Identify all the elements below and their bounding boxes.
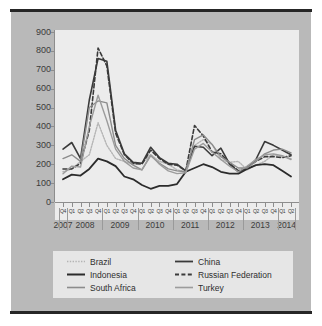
x-axis-tick-mark [107, 202, 108, 207]
legend-item-brazil[interactable]: Brazil [67, 255, 175, 268]
y-axis-tick-mark [51, 70, 54, 71]
year-separator [208, 208, 209, 230]
line-chart-svg [55, 30, 299, 220]
x-axis-tick-mark [256, 202, 257, 207]
quarter-label: Q2 [183, 208, 189, 215]
y-axis-tick-label: 800 [21, 46, 51, 55]
legend-label: Turkey [198, 283, 224, 293]
legend-item-south-africa[interactable]: South Africa [67, 281, 175, 294]
quarter-label: Q4 [60, 208, 66, 215]
x-axis-tick-mark [89, 202, 90, 207]
quarter-label: Q1 [139, 208, 145, 215]
x-axis-tick-mark [81, 202, 82, 207]
quarter-label: Q4 [130, 208, 136, 215]
x-axis-tick-mark [168, 202, 169, 207]
chart-screenshot: 0100200300400500600700800900 Q4Q1Q2Q3Q4Q… [0, 0, 322, 326]
x-axis-tick-mark [186, 202, 187, 207]
quarter-label: Q2 [253, 208, 259, 215]
quarter-label: Q1 [69, 208, 75, 215]
y-axis-tick-label: 600 [21, 84, 51, 93]
legend-item-russian-federation[interactable]: Russian Federation [175, 268, 291, 281]
legend-swatch-icon [67, 270, 85, 279]
year-label: 2010 [146, 220, 165, 231]
quarter-label: Q1 [279, 208, 285, 215]
year-label: 2012 [216, 220, 235, 231]
quarter-label: Q4 [200, 208, 206, 215]
year-label: 2011 [181, 220, 199, 231]
year-label: 2008 [75, 220, 94, 231]
y-axis-tick-label: 400 [21, 122, 51, 131]
y-axis-tick-label: 300 [21, 141, 51, 150]
year-label: 2009 [111, 220, 130, 231]
quarter-label: Q4 [95, 208, 101, 215]
legend-swatch-icon [175, 257, 193, 266]
plot-area [55, 30, 299, 220]
year-label: 2013 [251, 220, 270, 231]
y-axis-tick-mark [51, 126, 54, 127]
x-axis-tick-mark [291, 202, 292, 207]
legend-item-indonesia[interactable]: Indonesia [67, 268, 175, 281]
y-axis-tick-mark [51, 51, 54, 52]
legend-swatch-icon [67, 283, 85, 292]
y-axis-tick-mark [51, 145, 54, 146]
x-axis-tick-mark [221, 202, 222, 207]
series-line-turkey [63, 95, 291, 173]
legend-column-right: ChinaRussian FederationTurkey [175, 255, 291, 295]
year-separator [243, 208, 244, 230]
x-axis-tick-mark [212, 202, 213, 207]
legend-item-china[interactable]: China [175, 255, 291, 268]
y-axis-tick-mark [51, 89, 54, 90]
quarter-label: Q3 [227, 208, 233, 215]
x-axis-tick-mark [98, 202, 99, 207]
y-axis-tick-label: 900 [21, 28, 51, 37]
legend-label: Brazil [90, 257, 111, 267]
quarter-label: Q3 [191, 208, 197, 215]
year-label: 2014 [277, 220, 296, 231]
x-axis-tick-mark [159, 202, 160, 207]
bottom-rule [10, 311, 312, 314]
y-axis-tick-label: 100 [21, 179, 51, 188]
year-separator [138, 208, 139, 230]
quarter-label: Q3 [86, 208, 92, 215]
quarter-label: Q2 [218, 208, 224, 215]
quarter-label: Q2 [113, 208, 119, 215]
x-axis-tick-mark [133, 202, 134, 207]
y-axis-tick-label: 500 [21, 103, 51, 112]
y-axis-tick-label: 0 [21, 198, 51, 207]
x-axis-tick-mark [282, 202, 283, 207]
y-axis-tick-mark [51, 202, 54, 203]
y-axis-tick-label: 700 [21, 65, 51, 74]
x-axis-tick-mark [72, 202, 73, 207]
x-axis-tick-mark [247, 202, 248, 207]
year-separator [295, 208, 296, 230]
quarter-label: Q1 [209, 208, 215, 215]
y-axis-labels: 0100200300400500600700800900 [19, 30, 51, 220]
quarter-label: Q1 [104, 208, 110, 215]
x-axis-tick-mark [195, 202, 196, 207]
legend-label: Indonesia [90, 270, 127, 280]
series-line-south-africa [63, 101, 291, 172]
x-axis-tick-mark [142, 202, 143, 207]
x-axis-tick-mark [273, 202, 274, 207]
x-axis-tick-mark [63, 202, 64, 207]
quarter-label: Q3 [262, 208, 268, 215]
year-separator [59, 208, 60, 230]
quarter-label: Q1 [244, 208, 250, 215]
quarter-label: Q1 [174, 208, 180, 215]
quarter-label: Q2 [288, 208, 294, 215]
legend-column-left: BrazilIndonesiaSouth Africa [67, 255, 175, 295]
x-axis-tick-mark [177, 202, 178, 207]
year-separator [173, 208, 174, 230]
legend-item-turkey[interactable]: Turkey [175, 281, 291, 294]
legend-label: South Africa [90, 283, 136, 293]
y-axis-tick-mark [51, 108, 54, 109]
x-axis-tick-mark [151, 202, 152, 207]
legend-label: China [198, 257, 220, 267]
x-axis-tick-mark [265, 202, 266, 207]
x-axis-tick-mark [203, 202, 204, 207]
x-axis-tick-mark [238, 202, 239, 207]
year-separator [278, 208, 279, 230]
quarter-label: Q2 [148, 208, 154, 215]
series-line-china [63, 58, 291, 171]
quarter-label: Q4 [235, 208, 241, 215]
